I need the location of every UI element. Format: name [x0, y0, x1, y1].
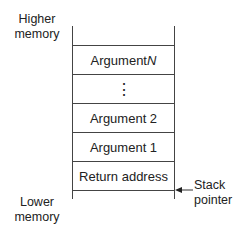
- arrow-head-icon: [175, 187, 182, 193]
- stack-pointer-arrow: [0, 0, 243, 233]
